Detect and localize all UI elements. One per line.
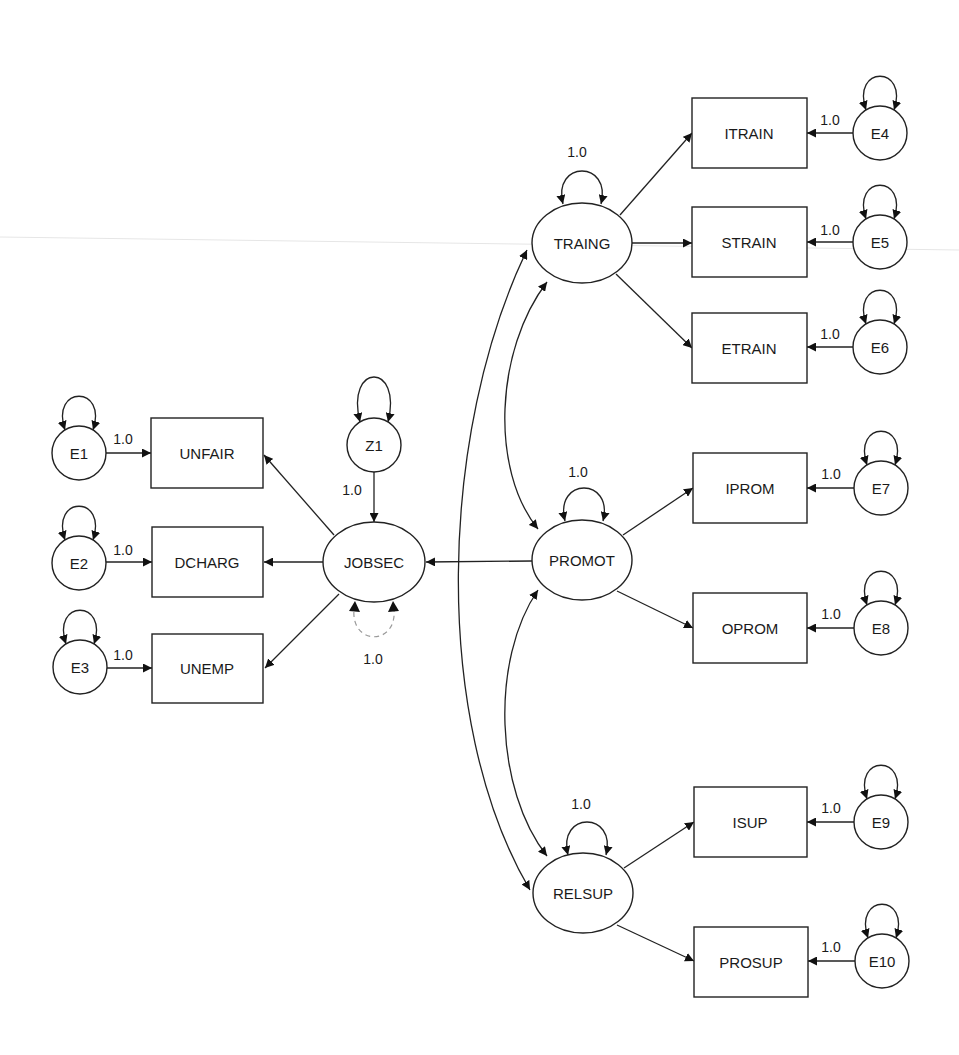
indicator-unfair: UNFAIR xyxy=(151,418,263,488)
sem-diagram: 1.0 1.0 1.0 1.0 1.0 1.0 1.0 1.0 1.0 1.0 … xyxy=(0,0,959,1055)
indicator-label-iprom: IPROM xyxy=(725,480,774,497)
variance-loop-e5 xyxy=(863,185,896,219)
error-label-e7: E7 xyxy=(872,480,890,497)
indicator-itrain: ITRAIN xyxy=(692,98,807,168)
path-traing-itrain xyxy=(620,133,692,215)
variance-loop-z1 xyxy=(357,377,390,422)
indicator-strain: STRAIN xyxy=(692,207,807,277)
indicator-label-strain: STRAIN xyxy=(721,234,776,251)
weight-e4: 1.0 xyxy=(820,112,840,128)
variance-loop-promot xyxy=(564,488,605,521)
path-relsup-isup xyxy=(624,822,694,868)
path-relsup-prosup xyxy=(617,925,694,961)
disturbance-label-z1: Z1 xyxy=(365,437,383,454)
factor-label-traing: TRAING xyxy=(554,235,611,252)
variance-label-jobsec: 1.0 xyxy=(363,651,383,667)
variance-label-promot: 1.0 xyxy=(568,464,588,480)
variance-arrowhead-jobsec-right xyxy=(388,601,399,612)
variance-loop-jobsec-dashed xyxy=(354,603,394,637)
error-label-e3: E3 xyxy=(71,659,89,676)
variance-loop-e6 xyxy=(863,290,896,324)
error-e1: E1 xyxy=(52,426,106,480)
indicator-label-prosup: PROSUP xyxy=(719,954,782,971)
covariance-promot-relsup xyxy=(505,590,547,856)
factor-label-jobsec: JOBSEC xyxy=(344,554,404,571)
indicator-label-dcharg: DCHARG xyxy=(174,554,239,571)
variance-loop-e10 xyxy=(865,904,898,938)
error-e9: E9 xyxy=(854,795,908,849)
error-e6: E6 xyxy=(853,320,907,374)
error-e5: E5 xyxy=(853,215,907,269)
indicator-label-itrain: ITRAIN xyxy=(724,125,773,142)
weight-e2: 1.0 xyxy=(113,542,133,558)
error-e7: E7 xyxy=(854,461,908,515)
scan-artifact-line xyxy=(0,237,959,250)
path-promot-iprom xyxy=(623,488,693,535)
variance-loop-e7 xyxy=(864,431,897,465)
weight-e8: 1.0 xyxy=(821,606,841,622)
error-e2: E2 xyxy=(52,536,106,590)
variance-loop-e8 xyxy=(864,571,897,605)
error-label-e8: E8 xyxy=(872,620,890,637)
weight-e9: 1.0 xyxy=(821,800,841,816)
indicator-label-unemp: UNEMP xyxy=(180,660,234,677)
indicator-label-etrain: ETRAIN xyxy=(721,340,776,357)
covariance-traing-relsup xyxy=(458,250,530,890)
error-label-e1: E1 xyxy=(70,445,88,462)
disturbance-z1: Z1 xyxy=(347,418,401,472)
indicator-iprom: IPROM xyxy=(693,453,807,523)
factor-promot: PROMOT xyxy=(532,520,632,600)
weight-z1-jobsec: 1.0 xyxy=(342,482,362,498)
weight-e1: 1.0 xyxy=(113,431,133,447)
covariance-traing-promot xyxy=(505,282,547,529)
variance-label-relsup: 1.0 xyxy=(571,796,591,812)
error-e4: E4 xyxy=(853,106,907,160)
indicator-label-unfair: UNFAIR xyxy=(179,445,234,462)
factor-label-relsup: RELSUP xyxy=(553,885,613,902)
error-label-e10: E10 xyxy=(869,953,896,970)
path-promot-oprom xyxy=(617,591,693,628)
indicator-dcharg: DCHARG xyxy=(152,527,263,597)
weight-e5: 1.0 xyxy=(820,222,840,238)
indicator-etrain: ETRAIN xyxy=(692,313,807,383)
weight-e6: 1.0 xyxy=(820,326,840,342)
indicator-isup: ISUP xyxy=(694,787,807,857)
variance-label-traing: 1.0 xyxy=(567,144,587,160)
path-traing-etrain xyxy=(616,274,692,348)
path-promot-jobsec xyxy=(426,561,532,562)
variance-loop-e1 xyxy=(62,396,95,430)
variance-loop-e4 xyxy=(863,76,896,110)
variance-arrowhead-jobsec-left xyxy=(349,601,360,612)
indicator-unemp: UNEMP xyxy=(152,634,263,703)
factor-relsup: RELSUP xyxy=(533,853,633,933)
indicator-label-oprom: OPROM xyxy=(722,620,779,637)
error-label-e2: E2 xyxy=(70,555,88,572)
error-e10: E10 xyxy=(855,934,909,988)
variance-loop-relsup xyxy=(567,822,608,855)
factor-traing: TRAING xyxy=(532,203,632,283)
weight-e3: 1.0 xyxy=(113,647,133,663)
error-e8: E8 xyxy=(854,601,908,655)
factor-jobsec: JOBSEC xyxy=(323,522,425,602)
variance-loop-traing xyxy=(562,171,603,204)
indicator-oprom: OPROM xyxy=(693,593,807,663)
indicator-prosup: PROSUP xyxy=(694,927,808,997)
error-label-e4: E4 xyxy=(871,125,889,142)
path-jobsec-unemp xyxy=(265,594,339,668)
weight-e10: 1.0 xyxy=(821,939,841,955)
variance-loop-e9 xyxy=(864,765,897,799)
indicator-label-isup: ISUP xyxy=(732,814,767,831)
factor-label-promot: PROMOT xyxy=(549,552,615,569)
error-label-e5: E5 xyxy=(871,234,889,251)
error-e3: E3 xyxy=(53,640,107,694)
variance-loop-e2 xyxy=(62,506,95,540)
path-jobsec-unfair xyxy=(264,455,334,535)
weight-e7: 1.0 xyxy=(821,466,841,482)
error-label-e6: E6 xyxy=(871,339,889,356)
error-label-e9: E9 xyxy=(872,814,890,831)
variance-loop-e3 xyxy=(63,610,96,644)
